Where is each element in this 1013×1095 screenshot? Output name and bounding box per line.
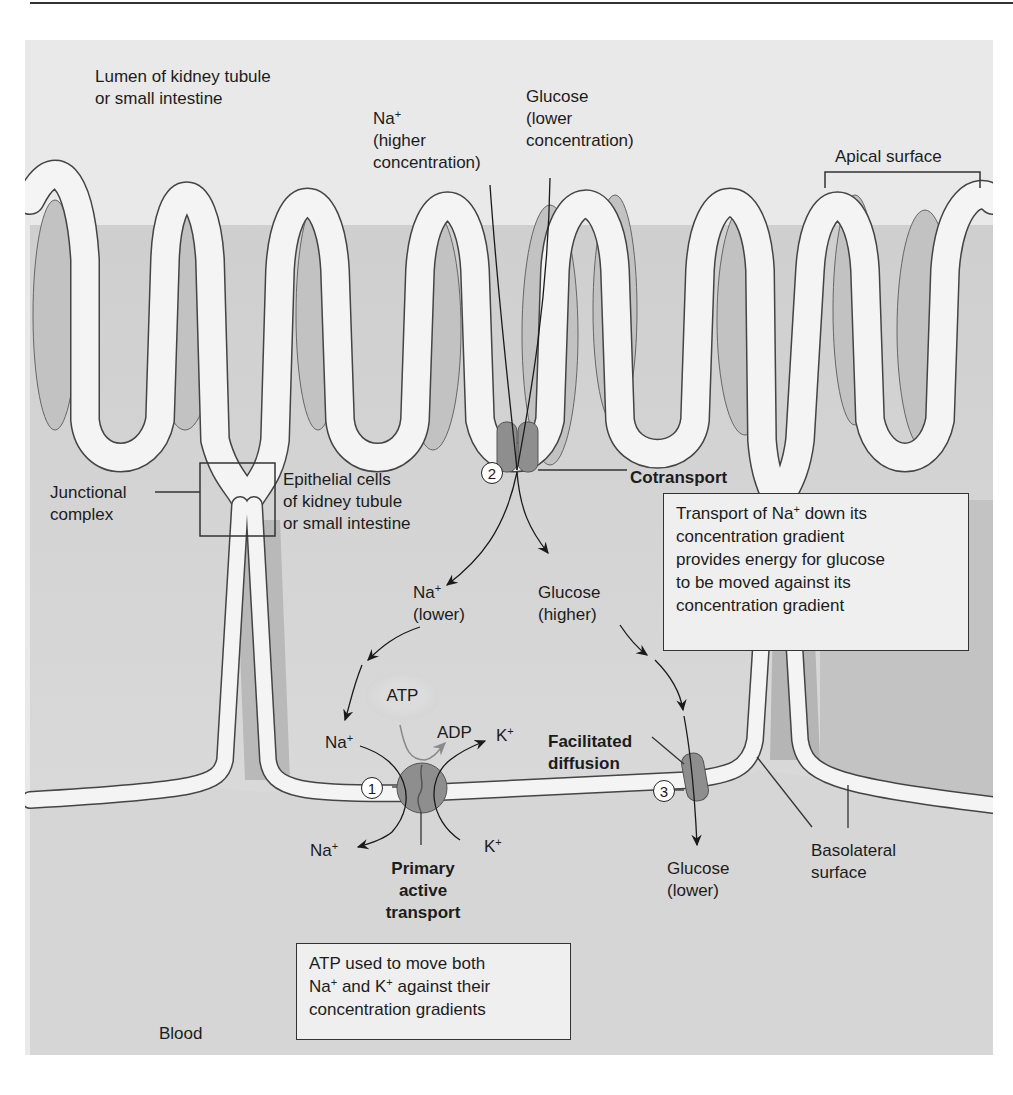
primary-active-transport-label: Primary active transport xyxy=(373,858,473,924)
atp-molecule: ATP xyxy=(365,672,440,720)
glucose-lower-label: Glucose (lower) xyxy=(667,858,729,902)
na-higher-label: Na+ (higher concentration) xyxy=(373,108,481,174)
glucose-lower-concentration-label: Glucose (lower concentration) xyxy=(526,86,634,152)
apical-surface-label: Apical surface xyxy=(835,146,942,168)
epithelial-cells-label: Epithelial cells of kidney tubule or sma… xyxy=(283,469,411,535)
step-2-marker: 2 xyxy=(481,462,503,484)
diagram-panel: Lumen of kidney tubule or small intestin… xyxy=(25,40,993,1055)
k-extracellular-label: K+ xyxy=(496,725,514,747)
facilitated-diffusion-label: Facilitated diffusion xyxy=(548,731,632,775)
atp-callout: ATP used to move both Na+ and K+ against… xyxy=(296,943,571,1040)
lumen-label: Lumen of kidney tubule or small intestin… xyxy=(95,66,271,110)
page-rule xyxy=(30,2,1013,4)
basolateral-surface-label: Basolateral surface xyxy=(811,840,896,884)
junctional-complex-label: Junctional complex xyxy=(50,482,127,526)
glucose-higher-label: Glucose (higher) xyxy=(538,582,600,626)
na-lower-label: Na+ (lower) xyxy=(413,582,465,626)
cotransport-callout: Transport of Na+ down its concentration … xyxy=(663,493,969,651)
na-blood-label: Na+ xyxy=(310,840,338,862)
adp-label: ADP xyxy=(437,722,472,744)
apical-bracket xyxy=(825,172,980,188)
na-intracellular-label: Na+ xyxy=(325,732,353,754)
step-3-marker: 3 xyxy=(653,780,675,802)
cotransport-label: Cotransport xyxy=(630,467,727,489)
step-1-marker: 1 xyxy=(361,777,383,799)
blood-label: Blood xyxy=(159,1023,202,1045)
k-blood-label: K+ xyxy=(484,836,502,858)
